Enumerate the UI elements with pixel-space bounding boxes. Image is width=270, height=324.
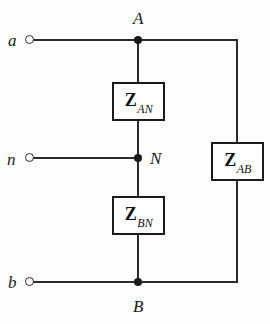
open-circle-terminal-b[interactable] — [25, 277, 34, 286]
junction-dot-B — [134, 278, 142, 286]
node-label-A: A — [133, 10, 143, 27]
terminal-label-n: n — [7, 151, 16, 168]
wire-n-to-node-N — [33, 157, 139, 159]
wire-ZBN-to-node-B — [137, 234, 139, 282]
node-label-N: N — [150, 150, 161, 167]
wire-right-branch-bottom — [236, 180, 238, 283]
open-circle-terminal-n[interactable] — [25, 153, 34, 162]
impedance-symbol-ZBN: Z — [125, 204, 137, 224]
wire-node-A-to-ZAN — [137, 39, 139, 83]
impedance-subscript-ZAN: AN — [137, 102, 152, 116]
impedance-box-ZAB[interactable]: ZAB — [211, 142, 264, 181]
terminal-label-a: a — [8, 32, 17, 49]
junction-dot-N — [134, 154, 142, 162]
impedance-box-ZBN[interactable]: ZBN — [112, 196, 165, 235]
node-label-B: B — [133, 298, 143, 315]
wire-node-N-to-ZBN — [137, 157, 139, 197]
impedance-label-ZAN: ZAN — [125, 91, 152, 112]
impedance-label-ZBN: ZBN — [125, 205, 152, 226]
impedance-box-ZAN[interactable]: ZAN — [112, 82, 165, 121]
impedance-subscript-ZAB: AB — [237, 162, 252, 176]
wire-ZAN-to-node-N — [137, 120, 139, 158]
impedance-label-ZAB: ZAB — [224, 151, 251, 172]
impedance-subscript-ZBN: BN — [137, 216, 152, 230]
junction-dot-A — [134, 36, 142, 44]
impedance-symbol-ZAN: Z — [125, 90, 137, 110]
open-circle-terminal-a[interactable] — [25, 35, 34, 44]
impedance-symbol-ZAB: Z — [224, 150, 236, 170]
wire-right-branch-top — [236, 39, 238, 143]
circuit-diagram-canvas: a n b A N B ZAN ZBN ZAB — [0, 0, 270, 324]
terminal-label-b: b — [8, 274, 17, 291]
